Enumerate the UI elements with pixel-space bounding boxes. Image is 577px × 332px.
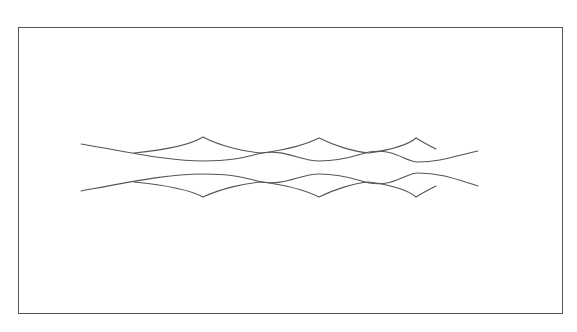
bottom-smooth-wave [81,173,478,191]
curve-drawing [0,0,577,332]
bottom-curve-pair [81,173,478,197]
top-curve-pair [81,137,478,162]
bottom-cusp-chain [134,182,436,197]
top-cusp-chain [134,137,436,153]
top-smooth-wave [81,144,478,162]
